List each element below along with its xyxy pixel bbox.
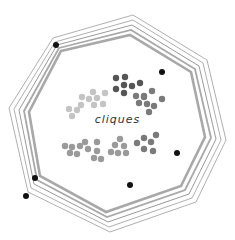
cluster-gray-mid xyxy=(108,136,129,156)
cluster-node xyxy=(86,96,92,102)
cluster-node xyxy=(141,135,147,141)
cluster-node xyxy=(122,74,128,80)
cluster-node xyxy=(69,144,75,150)
cluster-node xyxy=(94,148,100,154)
cluster-node xyxy=(98,156,104,162)
cluster-node xyxy=(123,150,129,156)
cluster-node xyxy=(137,80,143,86)
outer-node xyxy=(53,42,59,48)
cluster-node xyxy=(94,139,100,145)
cluster-node xyxy=(121,143,127,149)
cluster-node xyxy=(79,94,85,100)
cluster-gray-right xyxy=(134,132,159,154)
cluster-node xyxy=(102,90,108,96)
cluster-node xyxy=(141,93,147,99)
cluster-node xyxy=(121,90,127,96)
cluster-node xyxy=(85,146,91,152)
outer-node xyxy=(174,150,180,156)
cluster-node xyxy=(91,155,97,161)
cluster-node xyxy=(151,103,157,109)
cluster-node xyxy=(121,82,127,88)
cluster-node xyxy=(136,100,142,106)
cluster-mid xyxy=(133,88,165,115)
diagram-title: cliques xyxy=(0,113,235,126)
cluster-node xyxy=(82,139,88,145)
cluster-node xyxy=(67,150,73,156)
cluster-node xyxy=(148,139,154,145)
cluster-node xyxy=(144,101,150,107)
outer-node xyxy=(127,182,133,188)
cluster-node xyxy=(149,88,155,94)
cluster-node xyxy=(66,106,72,112)
cluster-node xyxy=(108,149,114,155)
cluster-node xyxy=(115,150,121,156)
cluster-node xyxy=(94,95,100,101)
cluster-dark xyxy=(113,74,143,96)
outer-node xyxy=(159,69,165,75)
cluster-node xyxy=(113,75,119,81)
cluster-node xyxy=(112,142,118,148)
cluster-node xyxy=(150,148,156,154)
cluster-node xyxy=(134,140,140,146)
cluster-node xyxy=(62,143,68,149)
cluster-node xyxy=(133,93,139,99)
cluster-node xyxy=(159,96,165,102)
cluster-node xyxy=(153,132,159,138)
cluster-node xyxy=(129,83,135,89)
cluster-node xyxy=(74,151,80,157)
cluster-node xyxy=(91,102,97,108)
cluster-node xyxy=(90,89,96,95)
cluster-node xyxy=(141,146,147,152)
outer-node xyxy=(32,175,38,181)
cluster-gray-left xyxy=(62,139,104,162)
outer-node xyxy=(23,193,29,199)
cluster-node xyxy=(117,136,123,142)
cluster-node xyxy=(113,86,119,92)
cluster-node xyxy=(100,101,106,107)
cluster-node xyxy=(77,143,83,149)
cluster-node xyxy=(78,102,84,108)
